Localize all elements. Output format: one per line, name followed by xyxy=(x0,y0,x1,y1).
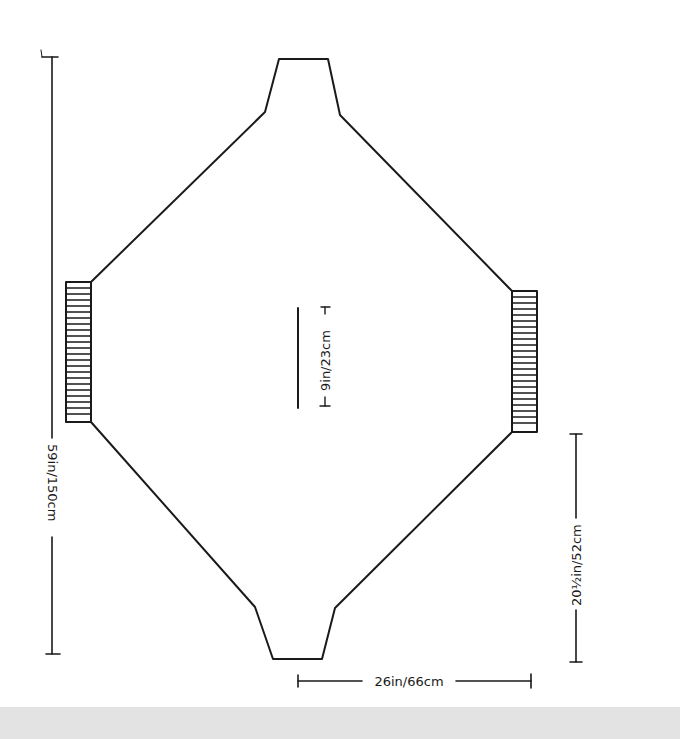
side-height-label: 20½in/52cm xyxy=(569,524,584,606)
center-slit-label: 9in/23cm xyxy=(318,330,333,391)
garment-outline xyxy=(91,59,512,659)
half-width-label: 26in/66cm xyxy=(374,674,443,689)
total-length-label: 59in/150cm xyxy=(45,444,60,521)
left-cuff-ribbing xyxy=(66,282,91,422)
right-cuff-ribbing xyxy=(512,291,537,432)
schematic-diagram: 59in/150cm 9in/23cm 20½in/52cm 26in/66cm xyxy=(0,0,680,739)
bottom-gray-band xyxy=(0,707,680,739)
total-length-dimension xyxy=(41,50,60,654)
